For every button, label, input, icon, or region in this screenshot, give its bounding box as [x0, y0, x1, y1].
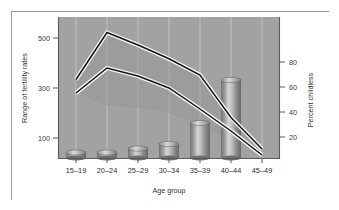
left-tick-labels: 500 300 100 — [38, 34, 50, 143]
left-axis-title: Range of fertility rates — [20, 53, 29, 123]
right-tick-20: 20 — [289, 133, 297, 142]
bar-30-34 — [159, 141, 179, 160]
left-tick-500: 500 — [38, 34, 50, 43]
right-tick-labels: 80 60 40 20 — [289, 58, 297, 142]
right-axis-title: Percent childless — [306, 72, 315, 127]
x-axis-title: Age group — [152, 186, 185, 195]
plot-container: 500 300 100 80 60 40 20 15–19 20–24 25–2… — [0, 0, 339, 210]
left-tick-100: 100 — [38, 134, 50, 143]
bar-35-39 — [190, 120, 210, 160]
right-tick-80: 80 — [289, 58, 297, 67]
cat-label-45-49: 45–49 — [252, 166, 273, 175]
cat-label-30-34: 30–34 — [159, 166, 180, 175]
cat-label-25-29: 25–29 — [128, 166, 149, 175]
cat-label-20-24: 20–24 — [97, 166, 118, 175]
right-tick-40: 40 — [289, 108, 297, 117]
cat-label-15-19: 15–19 — [66, 166, 87, 175]
chart-figure: 500 300 100 80 60 40 20 15–19 20–24 25–2… — [0, 0, 339, 210]
left-tick-300: 300 — [38, 84, 50, 93]
right-axis-ticks — [280, 62, 285, 137]
cat-label-40-44: 40–44 — [221, 166, 242, 175]
left-axis-ticks — [53, 38, 58, 138]
category-labels: 15–19 20–24 25–29 30–34 35–39 40–44 45–4… — [66, 166, 273, 175]
cat-label-35-39: 35–39 — [190, 166, 211, 175]
right-tick-60: 60 — [289, 83, 297, 92]
